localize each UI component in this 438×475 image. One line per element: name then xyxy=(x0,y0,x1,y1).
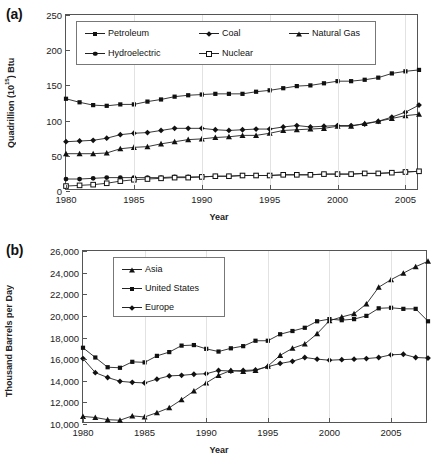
data-point-marker xyxy=(226,128,232,134)
data-point-marker xyxy=(106,365,110,369)
data-point-marker xyxy=(213,92,217,96)
data-point-marker xyxy=(290,358,296,364)
gridline-vertical xyxy=(391,251,392,422)
data-point-marker xyxy=(400,351,406,357)
chart-panel-b: (b) Thousand Barrels per Day 19801985199… xyxy=(0,237,438,475)
x-axis-label-b: Year xyxy=(0,445,438,455)
data-point-marker xyxy=(281,86,285,90)
y-axis-tickmark xyxy=(66,85,70,86)
legend-marker-open-square-icon xyxy=(206,51,212,57)
data-point-marker xyxy=(173,95,177,99)
x-axis-tickmark xyxy=(206,418,207,422)
data-point-marker xyxy=(228,368,234,374)
y-axis-tickmark xyxy=(83,294,87,295)
data-point-marker xyxy=(105,375,111,381)
legend-item-coal[interactable]: Coal xyxy=(199,28,241,38)
data-point-marker xyxy=(377,306,381,310)
data-point-marker xyxy=(290,329,294,333)
chart-legend: AsiaUnited StatesEurope xyxy=(113,257,225,317)
data-point-marker xyxy=(302,355,308,361)
panel-label-a: (a) xyxy=(6,6,23,22)
data-point-marker xyxy=(363,356,369,362)
legend-item-united-states[interactable]: United States xyxy=(122,283,199,293)
legend-item-label: Natural Gas xyxy=(312,28,360,38)
legend-item-petroleum[interactable]: Petroleum xyxy=(85,28,149,38)
x-axis-tick-label: 2005 xyxy=(395,194,416,205)
data-point-marker xyxy=(104,135,110,141)
legend-line-swatch xyxy=(289,33,309,34)
x-axis-tick-label: 1995 xyxy=(257,427,278,438)
data-point-marker xyxy=(154,410,160,416)
data-point-marker xyxy=(191,371,197,377)
legend-item-hydroelectric[interactable]: Hydroelectric xyxy=(85,48,161,58)
legend-marker-square-icon xyxy=(130,287,134,291)
data-point-marker xyxy=(425,258,431,264)
y-axis-tickmark xyxy=(66,156,70,157)
gridline-vertical xyxy=(268,251,269,422)
y-axis-tick-label: 50 xyxy=(51,150,62,161)
y-axis-tick-label: 150 xyxy=(46,80,62,91)
y-axis-tickmark xyxy=(83,338,87,339)
data-point-marker xyxy=(390,71,394,75)
data-point-marker xyxy=(145,99,149,103)
x-axis-tick-label: 1990 xyxy=(191,194,212,205)
y-axis-tick-label: 200 xyxy=(46,45,62,56)
data-point-marker xyxy=(192,343,196,347)
data-point-marker xyxy=(308,83,312,87)
data-point-marker xyxy=(229,346,233,350)
gridline-vertical xyxy=(405,15,406,189)
y-axis-tickmark xyxy=(66,15,70,16)
legend-line-swatch xyxy=(85,33,105,34)
data-point-marker xyxy=(303,326,307,330)
figure-container: (a) Quadrillion (1015) Btu 1980198519901… xyxy=(0,0,438,475)
y-axis-tick-label: 20,000 xyxy=(50,310,79,321)
y-axis-tickmark xyxy=(83,402,87,403)
data-point-marker xyxy=(172,175,177,180)
data-point-marker xyxy=(253,339,257,343)
y-axis-label-a: Quadrillion (1015) Btu xyxy=(4,28,16,178)
data-point-marker xyxy=(322,172,327,177)
y-axis-label-a-suffix: ) Btu xyxy=(6,58,16,79)
data-point-marker xyxy=(254,90,258,94)
data-point-marker xyxy=(278,332,282,336)
data-point-marker xyxy=(376,355,382,361)
y-axis-tickmark xyxy=(83,381,87,382)
x-axis-tick-label: 1985 xyxy=(123,194,144,205)
legend-item-nuclear[interactable]: Nuclear xyxy=(199,48,253,58)
data-point-marker xyxy=(349,79,353,83)
x-axis-tick-label: 2000 xyxy=(327,194,348,205)
data-point-marker xyxy=(154,376,160,382)
x-axis-tick-label: 1985 xyxy=(134,427,155,438)
legend-marker-triangle-icon xyxy=(296,31,302,36)
y-axis-tick-label: 16,000 xyxy=(50,354,79,365)
data-point-marker xyxy=(425,355,431,361)
x-axis-tick-label: 2005 xyxy=(380,427,401,438)
data-point-marker xyxy=(426,319,430,323)
data-point-marker xyxy=(186,175,191,180)
data-point-marker xyxy=(241,344,245,348)
data-point-marker xyxy=(145,130,151,136)
chart-panel-a: (a) Quadrillion (1015) Btu 1980198519901… xyxy=(0,0,438,237)
data-point-marker xyxy=(104,181,109,186)
data-point-marker xyxy=(364,314,368,318)
data-point-marker xyxy=(167,350,171,354)
legend-line-swatch xyxy=(199,33,219,34)
data-point-marker xyxy=(376,284,382,290)
data-point-marker xyxy=(64,177,69,182)
legend-item-label: Coal xyxy=(222,28,241,38)
data-point-marker xyxy=(414,307,418,311)
legend-item-label: United States xyxy=(145,283,199,293)
data-point-marker xyxy=(118,179,123,184)
legend-item-asia[interactable]: Asia xyxy=(122,264,163,274)
series-line xyxy=(66,70,419,106)
data-point-marker xyxy=(117,132,123,138)
legend-item-europe[interactable]: Europe xyxy=(122,302,174,312)
data-point-marker xyxy=(179,344,183,348)
data-point-marker xyxy=(155,354,159,358)
legend-item-label: Petroleum xyxy=(108,28,149,38)
legend-item-natural-gas[interactable]: Natural Gas xyxy=(289,28,360,38)
data-point-marker xyxy=(314,356,320,362)
legend-item-label: Hydroelectric xyxy=(108,48,161,58)
data-point-marker xyxy=(352,317,356,321)
x-axis-tickmark xyxy=(391,418,392,422)
